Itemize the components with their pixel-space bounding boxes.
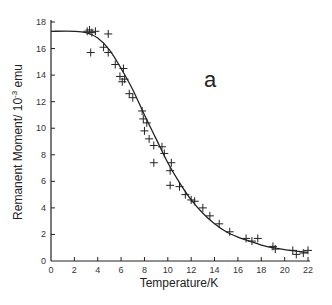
- x-tick-label: 10: [163, 265, 173, 275]
- y-tick-label: 10: [36, 123, 46, 133]
- data-point-marker: [91, 27, 99, 35]
- data-point-marker: [145, 135, 153, 143]
- y-tick-label: 6: [41, 176, 46, 186]
- data-point-marker: [104, 30, 112, 38]
- chart: 0246810121416182022024681012141618 a Tem…: [0, 0, 332, 305]
- y-axis-label: Remanent Moment/ 10-3 emu: [10, 64, 25, 220]
- data-point-marker: [119, 64, 127, 72]
- data-point-marker: [87, 49, 95, 57]
- x-tick-label: 8: [142, 265, 147, 275]
- axes: 0246810121416182022024681012141618: [36, 17, 313, 275]
- y-tick-label: 8: [41, 150, 46, 160]
- data-point-marker: [125, 90, 133, 98]
- y-tick-label: 4: [41, 203, 46, 213]
- x-tick-label: 14: [210, 265, 220, 275]
- y-tick-label: 12: [36, 97, 46, 107]
- data-point-marker: [289, 246, 297, 254]
- y-tick-label: 14: [36, 70, 46, 80]
- data-point-marker: [166, 167, 174, 175]
- data-point-marker: [150, 159, 158, 167]
- x-tick-label: 20: [280, 265, 290, 275]
- data-point-marker: [111, 60, 119, 68]
- y-tick-label: 0: [41, 256, 46, 266]
- data-point-marker: [138, 107, 146, 115]
- data-points: [83, 26, 312, 258]
- data-point-marker: [206, 212, 214, 220]
- x-tick-label: 18: [256, 265, 266, 275]
- x-tick-label: 4: [95, 265, 100, 275]
- data-point-marker: [104, 49, 112, 57]
- data-point-marker: [166, 181, 174, 189]
- data-point-marker: [100, 43, 108, 51]
- data-point-marker: [139, 115, 147, 123]
- fit-curve: [51, 31, 308, 252]
- data-point-marker: [167, 159, 175, 167]
- data-point-marker: [215, 220, 223, 228]
- y-tick-label: 16: [36, 44, 46, 54]
- x-tick-label: 0: [48, 265, 53, 275]
- data-point-marker: [150, 141, 158, 149]
- data-point-marker: [191, 197, 199, 205]
- x-axis-label: Temperature/K: [140, 276, 219, 290]
- x-tick-label: 2: [72, 265, 77, 275]
- panel-label: a: [204, 67, 217, 92]
- y-tick-label: 18: [36, 17, 46, 27]
- x-tick-label: 22: [303, 265, 313, 275]
- y-tick-label: 2: [41, 229, 46, 239]
- data-point-marker: [181, 191, 189, 199]
- x-tick-label: 16: [233, 265, 243, 275]
- x-tick-label: 6: [119, 265, 124, 275]
- data-point-marker: [176, 183, 184, 191]
- data-point-marker: [140, 127, 148, 135]
- x-tick-label: 12: [186, 265, 196, 275]
